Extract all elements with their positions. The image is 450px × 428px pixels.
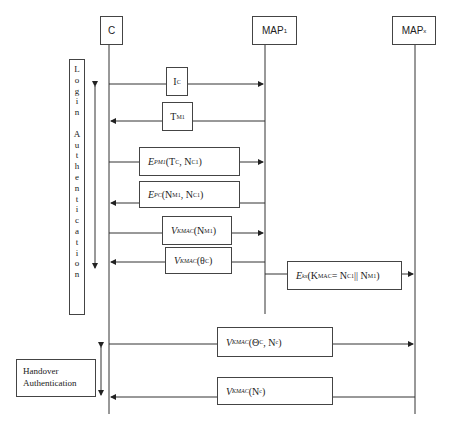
handover-line1: Handover — [23, 365, 89, 377]
message-box-6: VKMAC(θC) — [165, 247, 232, 274]
participant-map1: MAP1 — [252, 16, 297, 45]
participant-subscript: x — [423, 28, 426, 34]
participant-label: C — [108, 25, 115, 36]
message-box-5: VKMAC(NM1) — [162, 216, 232, 245]
message-box-9: VKMAC(Nc) — [217, 377, 333, 405]
login-authentication-label: LoginAuthentication — [69, 59, 85, 315]
handover-authentication-label: Handover Authentication — [16, 359, 96, 397]
message-box-3: EPM1(TC, NC1) — [139, 147, 240, 176]
participant-c: C — [100, 16, 123, 45]
participant-mapx: MAPx — [392, 16, 436, 45]
message-box-8: VKMAC(ΘC, Nc) — [217, 327, 333, 357]
participant-subscript: 1 — [284, 28, 287, 34]
handover-line2: Authentication — [23, 377, 89, 389]
message-box-7: Ekx(KMAC = NC1 || NM1) — [287, 261, 402, 290]
message-box-2: TM1 — [162, 102, 193, 131]
message-box-1: IC — [166, 67, 188, 96]
participant-label: MAP — [402, 25, 424, 36]
message-box-4: EPC(NM1, NC1) — [139, 181, 240, 208]
participant-label: MAP — [262, 25, 284, 36]
